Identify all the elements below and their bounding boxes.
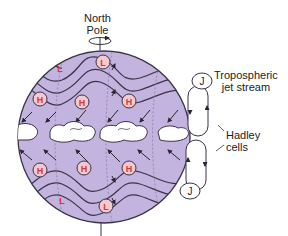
svg-text:J: J: [200, 76, 205, 87]
low-pressure-marker: L: [59, 196, 65, 206]
svg-text:H: H: [81, 164, 88, 174]
jet-stream-marker-north: J: [192, 73, 212, 89]
high-pressure-marker: H: [77, 161, 91, 175]
high-pressure-marker: H: [75, 95, 89, 109]
svg-text:H: H: [126, 97, 133, 107]
svg-text:L: L: [59, 196, 65, 206]
north-pole-label: North Pole: [84, 12, 111, 36]
svg-text:L: L: [103, 202, 109, 212]
svg-text:H: H: [37, 95, 44, 105]
hadley-cell-north: [188, 86, 208, 136]
high-pressure-marker: H: [33, 163, 47, 177]
svg-text:H: H: [37, 166, 44, 176]
low-pressure-marker: L: [99, 199, 113, 213]
low-pressure-marker: L: [96, 55, 110, 69]
globe: [10, 51, 200, 223]
high-pressure-marker: H: [33, 92, 47, 106]
svg-text:L: L: [100, 58, 106, 68]
svg-text:L: L: [57, 64, 63, 74]
high-pressure-marker: H: [122, 161, 136, 175]
hadley-cell-south: [186, 140, 206, 190]
svg-text:J: J: [188, 186, 193, 197]
high-pressure-marker: H: [122, 94, 136, 108]
hadley-cells-label: Hadley cells: [226, 129, 260, 153]
svg-text:H: H: [126, 164, 133, 174]
svg-text:H: H: [79, 98, 86, 108]
atmospheric-circulation-diagram: L L H H H H H H: [0, 0, 288, 236]
low-pressure-marker: L: [57, 64, 63, 74]
jet-stream-label: Tropospheric jet stream: [214, 69, 278, 93]
jet-stream-marker-south: J: [180, 183, 200, 199]
